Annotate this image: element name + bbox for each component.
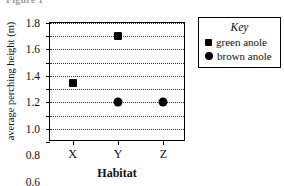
gridline — [50, 63, 184, 64]
figure-caption: Figure 1 — [6, 0, 43, 5]
x-axis-tick-label: Z — [160, 148, 167, 160]
y-axis-tick-label: 1.6 — [26, 45, 40, 57]
circle-marker-icon — [205, 52, 213, 60]
data-point-square — [69, 79, 77, 87]
y-axis-tick: 1.2 — [46, 63, 50, 64]
x-axis-title: Habitat — [97, 166, 136, 181]
legend-box: Key green anole brown anole — [198, 17, 281, 68]
y-axis-tick: 0.6 — [46, 102, 50, 103]
gridline — [50, 76, 184, 77]
y-axis-tick-label: 0.6 — [26, 177, 40, 186]
y-axis-tick: 0.8 — [46, 89, 50, 90]
y-axis-tick: 0.0 — [46, 142, 50, 143]
legend-item-brown-anole: brown anole — [203, 50, 276, 62]
y-axis-tick: 1.8 — [46, 23, 50, 24]
legend-item-green-anole: green anole — [203, 36, 276, 48]
data-point-circle — [159, 98, 168, 107]
gridline — [50, 49, 184, 50]
legend-item-label: brown anole — [217, 50, 272, 62]
gridline — [50, 129, 184, 130]
gridline — [50, 89, 184, 90]
y-axis-tick: 1.6 — [46, 36, 50, 37]
y-axis-tick-label: 1.2 — [26, 98, 40, 110]
y-axis-tick-label: 1.8 — [26, 18, 40, 30]
legend-item-label: green anole — [216, 36, 267, 48]
y-axis-tick: 0.4 — [46, 116, 50, 117]
y-axis-tick: 0.2 — [46, 129, 50, 130]
y-axis-title: average perching height (m) — [5, 22, 16, 141]
x-axis-tick — [163, 140, 164, 145]
data-point-circle — [114, 98, 123, 107]
square-marker-icon — [205, 39, 212, 46]
x-axis-tick — [118, 140, 119, 145]
y-axis-tick: 1.0 — [46, 76, 50, 77]
gridline — [50, 116, 184, 117]
y-axis-tick-label: 1.4 — [26, 71, 40, 83]
y-axis-tick-label: 0.8 — [26, 150, 40, 162]
data-point-square — [114, 32, 122, 40]
x-axis-tick — [73, 140, 74, 145]
plot-area: 0.00.20.40.60.81.01.21.41.61.8XYZ — [50, 23, 184, 140]
x-axis-tick-label: X — [68, 148, 77, 160]
y-axis-tick-label: 1.0 — [26, 124, 40, 136]
plot-frame: 0.00.20.40.60.81.01.21.41.61.8XYZ — [49, 22, 185, 141]
legend-title: Key — [203, 21, 276, 34]
y-axis-tick: 1.4 — [46, 49, 50, 50]
x-axis-tick-label: Y — [114, 148, 123, 160]
gridline — [50, 23, 184, 24]
